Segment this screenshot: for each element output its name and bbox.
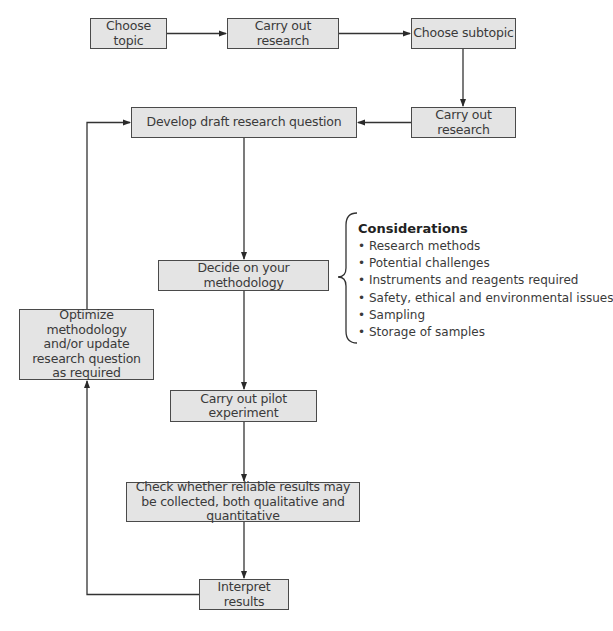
arrow-optimize-to-develop	[87, 123, 130, 310]
node-decide-methodology: Decide on your methodology	[158, 260, 329, 291]
consideration-item: Instruments and reagents required	[358, 272, 613, 289]
node-label: Carry out pilot experiment	[171, 392, 316, 421]
curly-brace	[338, 213, 357, 343]
node-carry-out-research-1: Carry out research	[227, 18, 339, 49]
consideration-item: Sampling	[358, 307, 613, 324]
node-label: Choose topic	[91, 19, 166, 48]
node-label: Decide on your methodology	[159, 261, 328, 290]
node-develop-question: Develop draft research question	[131, 107, 357, 138]
node-interpret-results: Interpret results	[199, 579, 289, 610]
considerations-panel: Considerations Research methods Potentia…	[358, 221, 613, 341]
node-label: Develop draft research question	[146, 115, 341, 130]
consideration-item: Potential challenges	[358, 255, 613, 272]
consideration-item: Storage of samples	[358, 324, 613, 341]
consideration-item: Safety, ethical and environmental issues	[358, 290, 613, 307]
node-label: Choose subtopic	[413, 26, 513, 41]
considerations-title: Considerations	[358, 221, 613, 236]
node-check-results: Check whether reliable results may be co…	[126, 482, 360, 522]
node-choose-topic: Choose topic	[90, 18, 167, 49]
node-choose-subtopic: Choose subtopic	[411, 18, 516, 49]
node-label: Carry out research	[412, 108, 515, 137]
node-optimize: Optimize methodology and/or update resea…	[19, 309, 154, 380]
node-label: Optimize methodology and/or update resea…	[26, 308, 147, 381]
node-label: Carry out research	[228, 19, 338, 48]
consideration-item: Research methods	[358, 238, 613, 255]
node-pilot-experiment: Carry out pilot experiment	[170, 390, 317, 422]
node-label: Check whether reliable results may be co…	[131, 480, 355, 524]
node-carry-out-research-2: Carry out research	[411, 107, 516, 138]
node-label: Interpret results	[200, 580, 288, 609]
